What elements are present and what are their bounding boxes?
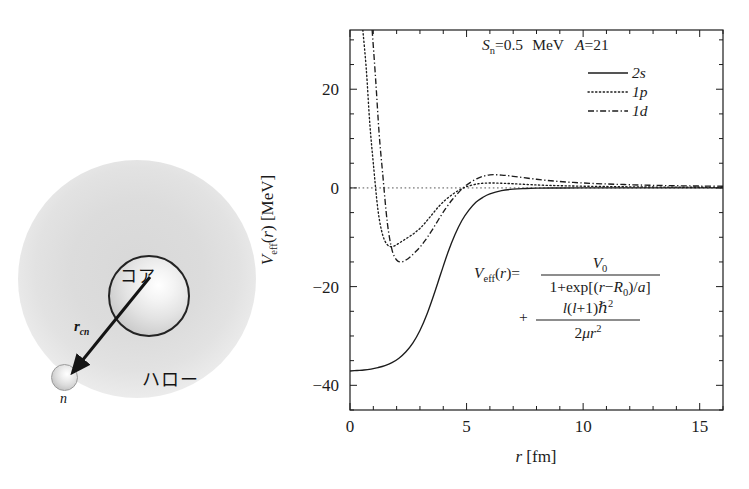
equation-annotation: Veff(r)= V0 1+exp[(r−R0)/a] + l(l+1)ℏ2 2… (474, 254, 660, 341)
equation-denominator-2: 2μr2 (575, 323, 602, 341)
equation-denominator-1: 1+exp[(r−R0)/a] (549, 278, 650, 298)
legend: 2s 1p 1d (588, 64, 648, 119)
x-tick-label: 0 (346, 417, 355, 436)
x-tick-label: 10 (575, 417, 592, 436)
x-tick-label: 5 (462, 417, 471, 436)
x-tick-labels: 051015 (346, 417, 708, 436)
equation-numerator-2: l(l+1)ℏ2 (563, 298, 614, 317)
y-tick-label: −40 (312, 376, 339, 395)
potential-plot: 051015 200−20−40 r [fm] Veff(r) [MeV] Sn… (0, 0, 749, 489)
y-tick-labels: 200−20−40 (312, 80, 339, 395)
legend-label-1p: 1p (632, 83, 648, 100)
y-axis-label: Veff(r) [MeV] (258, 175, 279, 265)
y-tick-label: 0 (331, 179, 340, 198)
equation-plus: + (519, 308, 528, 325)
curve-2s (350, 188, 723, 371)
equation-numerator-1: V0 (593, 254, 608, 274)
parameters-annotation: Sn=0.5MeVA=21 (482, 36, 609, 56)
axes-group (350, 30, 723, 410)
y-axis-label-group: Veff(r) [MeV] (258, 175, 279, 265)
legend-label-2s: 2s (632, 64, 646, 81)
x-tick-label: 15 (691, 417, 708, 436)
curve-1p (363, 30, 723, 247)
figure-root: コア ハロー rcn n 051015 200−20−40 r [fm] Vef… (0, 0, 749, 489)
y-tick-label: 20 (322, 80, 339, 99)
curve-1d (372, 30, 723, 262)
plot-frame (350, 30, 723, 410)
equation-lhs: Veff(r)= (474, 264, 520, 284)
x-axis-label: r [fm] (515, 447, 556, 466)
y-tick-label: −20 (312, 278, 339, 297)
legend-label-1d: 1d (632, 102, 648, 119)
